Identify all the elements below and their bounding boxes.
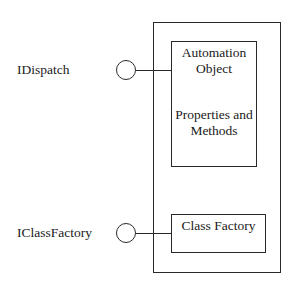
- properties-methods-line2: Methods: [171, 123, 257, 139]
- automation-object-title-line2: Object: [171, 61, 257, 77]
- idispatch-interface-label: IDispatch: [17, 62, 69, 78]
- iclassfactory-interface-label: IClassFactory: [17, 225, 92, 241]
- idispatch-interface-circle-icon: [116, 60, 136, 80]
- class-factory-label: Class Factory: [171, 218, 266, 234]
- properties-methods-line1: Properties and: [171, 107, 257, 123]
- automation-object-title-line1: Automation: [171, 45, 257, 61]
- iclassfactory-interface-circle-icon: [116, 223, 136, 243]
